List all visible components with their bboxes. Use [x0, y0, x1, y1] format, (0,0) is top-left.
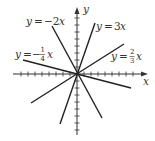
svg-text:x: x — [136, 50, 142, 62]
label-y-3x: y = 3 x — [95, 20, 126, 32]
svg-text:y: y — [25, 15, 33, 27]
y-axis-label: y — [82, 3, 90, 15]
label-y-2-3x: y = 2 3 x — [110, 48, 142, 65]
svg-text:−: − — [32, 48, 41, 60]
svg-text:=: = — [119, 50, 128, 62]
label-y-neg1-4x: y = − 1 4 x — [14, 46, 53, 63]
svg-text:y: y — [14, 48, 22, 60]
svg-text:2: 2 — [130, 48, 134, 56]
svg-text:x: x — [59, 15, 65, 27]
svg-text:x: x — [120, 20, 126, 32]
y-axis-arrow-icon — [75, 7, 80, 14]
label-y-neg2x: y = −2 x — [25, 15, 65, 27]
svg-text:=: = — [34, 15, 43, 27]
svg-text:1: 1 — [41, 46, 45, 54]
svg-text:=: = — [23, 48, 32, 60]
coordinate-plane: y x y = −2 x y = 3 x y = − 1 4 x y = 2 3… — [0, 0, 155, 141]
svg-text:y: y — [110, 50, 118, 62]
svg-text:x: x — [47, 48, 53, 60]
svg-text:4: 4 — [41, 55, 46, 63]
svg-text:3: 3 — [130, 57, 134, 65]
svg-text:=: = — [104, 20, 113, 32]
x-axis-label: x — [143, 75, 149, 87]
svg-text:y: y — [95, 20, 103, 32]
svg-text:−2: −2 — [44, 15, 59, 27]
